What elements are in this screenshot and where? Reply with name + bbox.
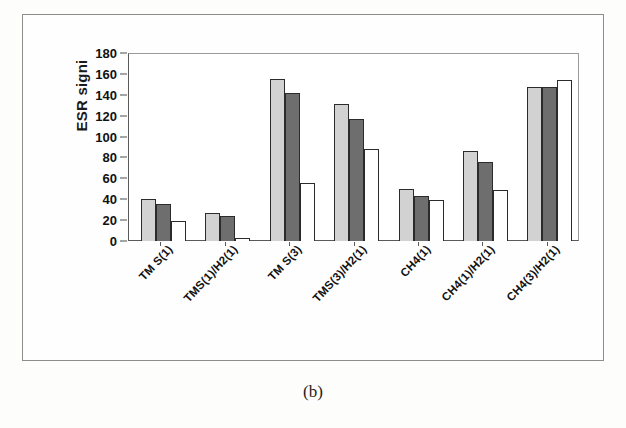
bar xyxy=(270,79,285,241)
y-tick-mark xyxy=(120,199,127,200)
bar xyxy=(334,104,349,241)
x-tick-mark xyxy=(354,242,355,246)
x-tick-label: TM S(1) xyxy=(137,243,175,283)
bar-group xyxy=(141,53,186,241)
bar xyxy=(349,119,364,241)
y-tick-label: 140 xyxy=(95,87,117,102)
scanned-page: ESR signi 020406080100120140160180 TM S(… xyxy=(0,0,626,428)
y-tick-label: 40 xyxy=(103,192,117,207)
x-tick-mark xyxy=(482,242,483,246)
bars-layer xyxy=(128,53,579,241)
x-tick-mark xyxy=(289,242,290,246)
bar xyxy=(300,183,315,241)
x-tick-mark xyxy=(418,242,419,246)
y-tick-label: 100 xyxy=(95,129,117,144)
bar xyxy=(557,80,572,241)
bar xyxy=(220,216,235,241)
y-tick-label: 180 xyxy=(95,46,117,61)
y-tick-mark xyxy=(120,136,127,137)
bar-group xyxy=(205,53,250,241)
y-tick-mark xyxy=(120,94,127,95)
bar xyxy=(156,204,171,241)
y-tick-label: 0 xyxy=(110,234,117,249)
y-tick-mark xyxy=(120,115,127,116)
x-tick-label: TM S(3) xyxy=(266,243,304,283)
bar xyxy=(527,87,542,241)
bar-group xyxy=(527,53,572,241)
bar xyxy=(542,87,557,241)
bar-group xyxy=(463,53,508,241)
y-tick-label: 80 xyxy=(103,150,117,165)
y-tick-mark xyxy=(120,220,127,221)
y-tick-mark xyxy=(120,73,127,74)
bar xyxy=(478,162,493,241)
bar xyxy=(285,93,300,241)
y-tick-mark xyxy=(120,178,127,179)
x-tick-label: CH4(1)/H2(1) xyxy=(440,243,497,303)
x-tick-label: CH4(3)/H2(1) xyxy=(504,243,561,303)
y-axis-tick-labels: 020406080100120140160180 xyxy=(63,45,127,249)
bar-group xyxy=(334,53,379,241)
y-tick-label: 60 xyxy=(103,171,117,186)
bar xyxy=(399,189,414,241)
y-tick-label: 20 xyxy=(103,213,117,228)
bar xyxy=(414,196,429,241)
x-tick-mark xyxy=(225,242,226,246)
x-tick-label: TMS(1)/H2(1) xyxy=(181,243,239,304)
bar xyxy=(205,213,220,241)
bar-chart: ESR signi 020406080100120140160180 TM S(… xyxy=(23,15,603,360)
x-tick-mark xyxy=(547,242,548,246)
y-tick-mark xyxy=(120,157,127,158)
y-tick-label: 160 xyxy=(95,66,117,81)
bar xyxy=(141,199,156,241)
figure-frame: ESR signi 020406080100120140160180 TM S(… xyxy=(22,14,604,361)
bar xyxy=(429,200,444,241)
y-tick-label: 120 xyxy=(95,108,117,123)
x-tick-label: CH4(1) xyxy=(398,243,433,279)
bar xyxy=(493,190,508,241)
bar xyxy=(171,221,186,241)
bar-group xyxy=(399,53,444,241)
bar xyxy=(235,238,250,241)
bar xyxy=(364,149,379,241)
x-axis-tick-labels: TM S(1)TMS(1)/H2(1)TM S(3)TMS(3)/H2(1)CH… xyxy=(128,243,579,353)
x-tick-mark xyxy=(160,242,161,246)
y-tick-mark xyxy=(120,241,127,242)
figure-caption: (b) xyxy=(0,382,626,402)
bar xyxy=(463,151,478,241)
x-tick-label: TMS(3)/H2(1) xyxy=(310,243,368,304)
bar-group xyxy=(270,53,315,241)
y-tick-mark xyxy=(120,53,127,54)
